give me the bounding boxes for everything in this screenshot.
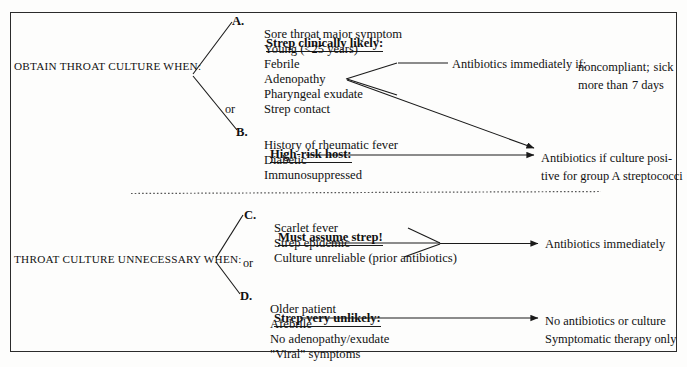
list-item: Strep epidemic bbox=[274, 236, 457, 251]
list-item: No adenopathy/exudate bbox=[270, 332, 389, 347]
list-item: History of rheumatic fever bbox=[264, 138, 398, 153]
group-d-item-list: Older patient Afebrile No adenopathy/exu… bbox=[270, 302, 389, 362]
group-a-item-list: Sore throat major symptom Young (<25 yea… bbox=[264, 27, 402, 117]
group-letter-c: C. bbox=[244, 208, 256, 223]
outcome-b-text: Antibiotics if culture posi- tive for gr… bbox=[541, 148, 687, 184]
or-connector-top: or bbox=[225, 102, 235, 116]
group-letter-d: D. bbox=[240, 289, 252, 304]
list-item: Diabetic bbox=[264, 153, 398, 168]
group-c-item-list: Scarlet fever Strep epidemic Culture unr… bbox=[274, 221, 457, 266]
group-letter-b: B. bbox=[236, 125, 248, 140]
list-item: Pharyngeal exudate bbox=[264, 87, 402, 102]
outcome-d-line: Symptomatic therapy only bbox=[545, 332, 676, 346]
list-item: Sore throat major symptom bbox=[264, 27, 402, 42]
outcome-b-line: Antibiotics if culture posi- bbox=[541, 151, 672, 165]
outcome-a-line: noncompliant; bbox=[578, 60, 650, 74]
group-b-item-list: History of rheumatic fever Diabetic Immu… bbox=[264, 138, 398, 183]
left-label-culture-unnecessary: THROAT CULTURE UNNECESSARY WHEN: bbox=[14, 253, 242, 266]
outcome-d-line: No antibiotics or culture bbox=[545, 314, 666, 328]
outcome-d-text: No antibiotics or culture Symptomatic th… bbox=[545, 311, 687, 347]
list-item: Strep contact bbox=[264, 102, 402, 117]
list-item: Afebrile bbox=[270, 317, 389, 332]
list-item: Immunosuppressed bbox=[264, 168, 398, 183]
outcome-a-line: 7 days bbox=[632, 78, 664, 92]
outcome-c-text: Antibiotics immediately bbox=[545, 237, 665, 252]
diagram-page: OBTAIN THROAT CULTURE WHEN: THROAT CULTU… bbox=[0, 0, 687, 367]
list-item: Older patient bbox=[270, 302, 389, 317]
group-letter-a: A. bbox=[232, 14, 244, 29]
left-label-obtain-culture: OBTAIN THROAT CULTURE WHEN: bbox=[14, 60, 201, 73]
outcome-a-label: Antibiotics immediately if: bbox=[452, 57, 586, 72]
list-item: Scarlet fever bbox=[274, 221, 457, 236]
list-item: Culture unreliable (prior antibiotics) bbox=[274, 251, 457, 266]
list-item: Adenopathy bbox=[264, 72, 402, 87]
or-connector-bottom: or bbox=[243, 256, 253, 270]
list-item: Young (<25 years) bbox=[264, 42, 402, 57]
outcome-b-line: tive for group A streptococci bbox=[541, 169, 683, 183]
list-item: Febrile bbox=[264, 57, 402, 72]
outcome-a-conditions: noncompliant; sick more than 7 days bbox=[578, 57, 687, 93]
list-item: "Viral" symptoms bbox=[270, 347, 389, 362]
